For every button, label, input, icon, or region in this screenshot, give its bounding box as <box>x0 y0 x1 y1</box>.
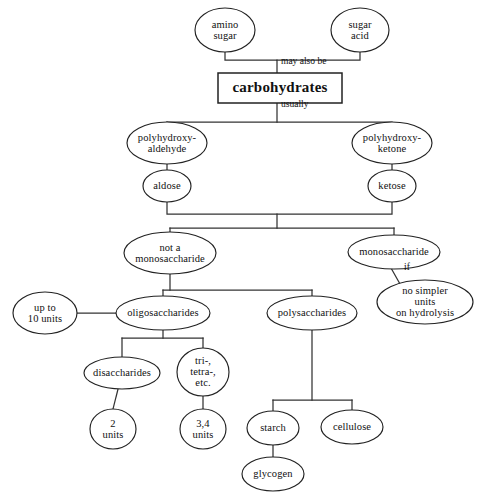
node-no_simpler_units[interactable] <box>377 280 473 324</box>
edge-connector <box>277 52 360 60</box>
node-not_a_mono[interactable] <box>124 232 216 274</box>
node-disaccharides[interactable] <box>84 357 160 389</box>
diagram-canvas <box>0 0 488 504</box>
node-polyhydroxy_ket[interactable] <box>352 122 432 164</box>
node-polysaccharides[interactable] <box>267 296 357 330</box>
edge-connector <box>225 52 277 73</box>
node-carbohydrates[interactable] <box>218 73 342 103</box>
node-starch[interactable] <box>247 411 299 445</box>
edge-connector <box>167 202 392 214</box>
edge-connector <box>113 389 118 409</box>
node-sugar_acid[interactable] <box>331 8 389 52</box>
node-cellulose[interactable] <box>321 410 383 444</box>
node-oligosaccharides[interactable] <box>116 296 210 330</box>
node-amino_sugar[interactable] <box>195 8 255 52</box>
node-aldose[interactable] <box>143 170 191 202</box>
node-up_to_10_units[interactable] <box>13 292 77 334</box>
node-ketose[interactable] <box>368 170 416 202</box>
concept-map-diagram: amino sugarsugar acidcarbohydratespolyhy… <box>0 0 488 504</box>
node-polyhydroxy_ald[interactable] <box>127 122 207 164</box>
edge-connector <box>391 268 400 284</box>
node-monosaccharide[interactable] <box>348 235 440 269</box>
node-three_four_units[interactable] <box>180 409 226 449</box>
node-tri_tetra_etc[interactable] <box>177 348 229 396</box>
node-two_units[interactable] <box>90 409 136 449</box>
nodes-layer <box>13 8 473 491</box>
node-glycogen[interactable] <box>242 457 304 491</box>
